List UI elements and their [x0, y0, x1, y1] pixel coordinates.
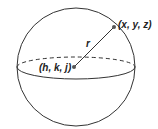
center-label: (h, k, j) — [39, 62, 72, 73]
radius-line — [74, 27, 114, 67]
surface-point — [112, 25, 116, 29]
point-label: (x, y, z) — [118, 19, 152, 30]
sphere-diagram: (h, k, j) (x, y, z) r — [0, 0, 158, 129]
equator-front — [17, 67, 135, 79]
radius-label: r — [86, 38, 91, 49]
center-point — [72, 65, 76, 69]
